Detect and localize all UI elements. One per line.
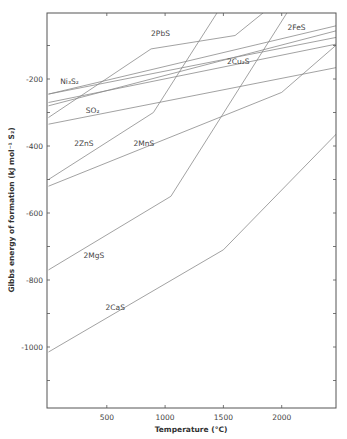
x-tick-label: 1000 [156, 413, 175, 422]
plot-frame [47, 13, 336, 408]
y-axis-title: Gibbs energy of formation (kJ mol⁻¹ S₂) [7, 127, 16, 292]
plot-lines [49, 12, 338, 352]
y-tick-label: -800 [26, 276, 43, 285]
x-axis-title: Temperature (°C) [155, 425, 228, 434]
x-tick-label: 1500 [214, 413, 233, 422]
x-axis-ticks: 500100015002000 [100, 13, 292, 422]
series-label-ni3s2: Ni₃S₂ [60, 77, 78, 86]
series-line-2fes [49, 30, 338, 105]
y-tick-label: -200 [26, 75, 43, 84]
series-label-2mgs: 2MgS [84, 251, 105, 260]
series-label-2cas: 2CaS [106, 303, 126, 312]
series-label-2pbs: 2PbS [151, 29, 170, 38]
series-line-2cu2s [49, 37, 338, 94]
series-label-2cu2s: 2Cu₂S [227, 57, 250, 66]
series-label-2zns: 2ZnS [74, 139, 94, 148]
y-tick-label: -600 [26, 209, 43, 218]
x-tick-label: 500 [100, 413, 115, 422]
series-label-so2: SO₂ [86, 106, 100, 115]
x-tick-label: 2000 [272, 413, 291, 422]
series-line-2cas [49, 133, 338, 352]
series-line-ni3s2 [49, 25, 338, 94]
series-line-2mns [49, 44, 338, 186]
series-label-2mns: 2MnS [134, 139, 155, 148]
gibbs-energy-chart: 2PbSNi₃S₂2FeS2Cu₂SSO₂2ZnS2MnS2MgS2CaS 50… [0, 0, 347, 439]
y-axis-ticks: -200-400-600-800-1000 [21, 46, 336, 381]
series-line-2cu2s_b [49, 44, 338, 103]
series-line-so2 [49, 67, 338, 124]
y-tick-label: -400 [26, 142, 43, 151]
y-tick-label: -1000 [21, 343, 43, 352]
series-label-2fes: 2FeS [288, 23, 306, 32]
